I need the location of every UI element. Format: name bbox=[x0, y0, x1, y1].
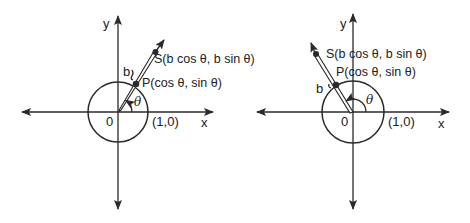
point-S-marker bbox=[313, 51, 319, 57]
b-label: b bbox=[123, 64, 130, 79]
theta-label: θ bbox=[366, 93, 374, 107]
S-label: S(b cos θ, b sin θ) bbox=[326, 47, 427, 61]
figure: y x 0 (1,0) θ b S(b cos θ, b sin θ) P(co… bbox=[0, 0, 470, 223]
P-label: P(cos θ, sin θ) bbox=[142, 76, 222, 90]
point-P-marker bbox=[133, 81, 140, 88]
theta-label: θ bbox=[134, 95, 142, 109]
x-axis-label: x bbox=[201, 115, 208, 130]
b-brace bbox=[329, 84, 331, 88]
y-axis-label: y bbox=[340, 16, 347, 31]
y-axis-label: y bbox=[103, 16, 110, 31]
origin-label: 0 bbox=[341, 114, 348, 129]
P-label: P(cos θ, sin θ) bbox=[336, 65, 416, 79]
unit-point-label: (1,0) bbox=[388, 114, 415, 129]
point-P-marker bbox=[333, 82, 340, 89]
origin-label: 0 bbox=[106, 114, 113, 129]
b-label: b bbox=[316, 81, 323, 96]
x-axis-label: x bbox=[438, 116, 445, 131]
S-label: S(b cos θ, b sin θ) bbox=[154, 52, 255, 66]
left-diagram: y x 0 (1,0) θ b S(b cos θ, b sin θ) P(co… bbox=[22, 16, 255, 209]
vector-arrow-icon bbox=[156, 40, 164, 51]
right-diagram: y x 0 (1,0) θ b S(b cos θ, b sin θ) P(co… bbox=[257, 14, 449, 209]
unit-point-label: (1,0) bbox=[152, 114, 179, 129]
b-brace bbox=[131, 70, 133, 80]
